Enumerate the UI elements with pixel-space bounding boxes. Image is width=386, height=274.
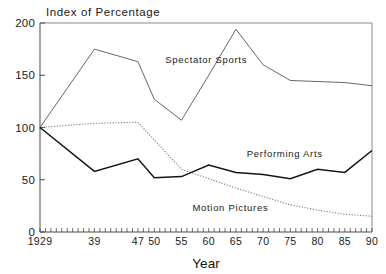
x-tick-label: 47	[132, 235, 144, 247]
series-label-spectator-sports: Spectator Sports	[165, 54, 247, 65]
x-tick-label: 80	[311, 235, 323, 247]
y-tick-label: 50	[22, 174, 35, 186]
series-line-spectator-sports	[40, 29, 372, 127]
x-tick-label: 85	[339, 235, 351, 247]
x-tick-label: 50	[148, 235, 160, 247]
y-tick-label: 150	[15, 69, 35, 81]
x-tick-label: 65	[230, 235, 242, 247]
chart-title: Index of Percentage	[46, 6, 160, 18]
index-of-percentage-line-chart: 050100150200 19293947505560657075808590 …	[0, 0, 386, 274]
x-axis-ticks: 19293947505560657075808590	[28, 228, 378, 247]
x-tick-label: 1929	[28, 235, 53, 247]
chart-container: 050100150200 19293947505560657075808590 …	[0, 0, 386, 274]
x-tick-label: 70	[257, 235, 269, 247]
x-tick-label: 39	[88, 235, 100, 247]
y-tick-label: 100	[15, 122, 35, 134]
x-tick-label: 55	[175, 235, 187, 247]
series-label-motion-pictures: Motion Pictures	[192, 202, 268, 213]
x-tick-label: 75	[284, 235, 296, 247]
x-axis-title: Year	[192, 256, 220, 271]
x-tick-label: 90	[366, 235, 378, 247]
y-tick-label: 200	[15, 17, 35, 29]
x-tick-label: 60	[203, 235, 215, 247]
series-label-performing-arts: Performing Arts	[247, 148, 323, 159]
